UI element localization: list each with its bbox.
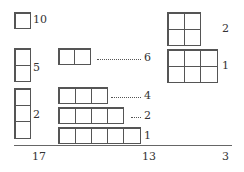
baseline-rule	[14, 145, 232, 146]
leader-dots	[131, 117, 141, 118]
cell	[184, 50, 201, 67]
total-right: 3	[222, 151, 229, 163]
count-label-1x1: 10	[33, 14, 47, 26]
cell	[184, 29, 201, 46]
count-label-3x2: 1	[222, 60, 229, 72]
shape-4x1	[58, 107, 124, 124]
cell	[184, 66, 201, 83]
cell	[75, 128, 92, 144]
cell	[91, 88, 108, 104]
cell	[15, 49, 31, 66]
count-label-2x2: 2	[222, 23, 229, 35]
cell	[15, 13, 31, 29]
cell	[107, 108, 124, 124]
shape-2x2	[167, 12, 201, 46]
cell	[200, 50, 217, 67]
cell	[59, 128, 76, 144]
count-label-1x3: 2	[33, 109, 40, 121]
cell	[15, 89, 31, 106]
cell	[59, 108, 76, 124]
cell	[168, 66, 185, 83]
cell	[168, 50, 185, 67]
shape-5x1	[58, 127, 141, 144]
shape-2x1	[58, 48, 91, 65]
cell	[15, 121, 31, 138]
cell	[168, 29, 185, 46]
cell	[75, 108, 92, 124]
shape-1x1	[14, 12, 31, 29]
count-label-1x2: 5	[33, 62, 40, 74]
cell	[59, 88, 76, 104]
count-label-3x1: 4	[144, 90, 151, 102]
cell	[59, 49, 76, 65]
cell	[107, 128, 124, 144]
leader-dots	[111, 97, 141, 98]
cell	[184, 13, 201, 30]
leader-dots	[97, 59, 141, 60]
shape-1x3	[14, 88, 31, 139]
count-label-5x1: 1	[144, 130, 151, 142]
cell	[91, 128, 108, 144]
shape-3x1	[58, 87, 108, 104]
cell	[200, 66, 217, 83]
cell	[74, 49, 91, 65]
cell	[91, 108, 108, 124]
shape-1x2	[14, 48, 31, 82]
total-middle: 13	[142, 151, 156, 163]
total-left: 17	[32, 151, 46, 163]
count-label-4x1: 2	[144, 110, 151, 122]
count-label-2x1: 6	[144, 52, 151, 64]
cell	[15, 105, 31, 122]
cell	[15, 65, 31, 82]
cell	[168, 13, 185, 30]
cell	[123, 128, 140, 144]
cell	[75, 88, 92, 104]
shape-3x2	[167, 49, 218, 83]
